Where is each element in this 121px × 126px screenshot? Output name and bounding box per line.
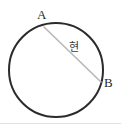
bottom-rule — [0, 123, 121, 124]
point-label-b: B — [104, 76, 113, 89]
point-label-a: A — [37, 8, 46, 21]
chord-label: 현 — [69, 42, 79, 53]
chord-segment-ab — [44, 27, 101, 82]
geometry-figure — [0, 0, 121, 126]
